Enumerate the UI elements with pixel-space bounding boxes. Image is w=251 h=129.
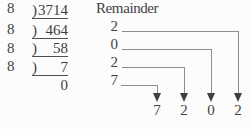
arrow-down-icon	[153, 93, 161, 102]
division-bracket: )	[32, 41, 37, 56]
octal-digit: 2	[228, 103, 248, 118]
remainder-header-label: Remainder	[96, 1, 158, 16]
divisor-digit: 8	[7, 22, 19, 37]
final-quotient-value: 0	[61, 78, 69, 93]
arrow-down-icon	[234, 93, 242, 102]
division-row: ) 3714	[32, 1, 68, 19]
quotient-value: 58	[53, 41, 68, 56]
octal-digit: 2	[174, 103, 194, 118]
divisor-digit: 8	[7, 41, 19, 56]
divisor-digit: 8	[7, 1, 19, 16]
octal-digit: 0	[201, 103, 221, 118]
division-row-final: 0	[32, 78, 73, 93]
division-bracket: )	[32, 60, 37, 75]
division-row: ) 7	[32, 59, 68, 76]
arrow-down-icon	[207, 93, 215, 102]
remainder-digit: 0	[104, 37, 118, 52]
division-row: ) 464	[32, 22, 68, 39]
division-bracket: )	[32, 3, 37, 18]
quotient-value: 3714	[38, 3, 68, 18]
remainder-digit: 2	[104, 55, 118, 70]
arrow-down-icon	[180, 93, 188, 102]
remainder-digit: 7	[104, 73, 118, 88]
division-row: ) 58	[32, 41, 68, 57]
quotient-value: 7	[61, 60, 69, 75]
division-bracket: )	[32, 23, 37, 38]
remainder-digit: 2	[104, 19, 118, 34]
divisor-digit: 8	[7, 59, 19, 74]
quotient-value: 464	[46, 23, 69, 38]
division-diagram: 8 8 8 8 ) 3714 ) 464 ) 58 ) 7 0 Remainde…	[0, 0, 251, 129]
octal-digit: 7	[147, 103, 167, 118]
